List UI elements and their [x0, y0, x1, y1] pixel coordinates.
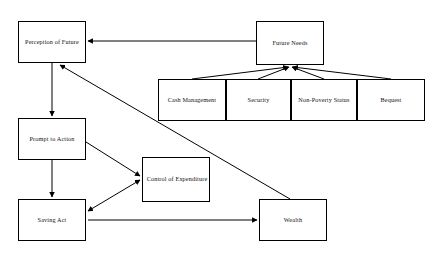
node-label-control-of-expenditure: Control of Expenditure [147, 176, 208, 183]
node-control-of-expenditure[interactable]: Control of Expenditure [142, 157, 210, 202]
edges-group [52, 41, 391, 220]
node-label-saving-act: Saving Act [38, 217, 67, 224]
node-label-bequest: Bequest [381, 97, 402, 104]
node-prompt-to-action[interactable]: Prompt to Action [18, 118, 86, 160]
node-future-needs[interactable]: Future Needs [256, 21, 324, 65]
node-label-cash-management: Cash Management [168, 97, 216, 104]
flowchart-diagram: Perception of FutureFuture NeedsCash Man… [0, 0, 443, 254]
node-security[interactable]: Security [226, 79, 291, 121]
node-label-future-needs: Future Needs [273, 40, 308, 47]
node-non-poverty-status[interactable]: Non-Poverty Status [291, 79, 357, 121]
edge-prompt-to-action-to-control [86, 142, 140, 176]
edge-saving-act-control-bidirectional [88, 180, 140, 211]
node-wealth[interactable]: Wealth [259, 199, 327, 241]
node-cash-management[interactable]: Cash Management [158, 79, 226, 121]
node-perception-of-future[interactable]: Perception of Future [18, 21, 86, 63]
node-label-prompt-to-action: Prompt to Action [29, 136, 74, 143]
node-label-non-poverty-status: Non-Poverty Status [298, 97, 349, 104]
node-label-wealth: Wealth [284, 217, 302, 224]
node-bequest[interactable]: Bequest [357, 79, 425, 121]
node-saving-act[interactable]: Saving Act [18, 199, 86, 241]
node-label-security: Security [248, 97, 270, 104]
node-label-perception-of-future: Perception of Future [25, 39, 79, 46]
